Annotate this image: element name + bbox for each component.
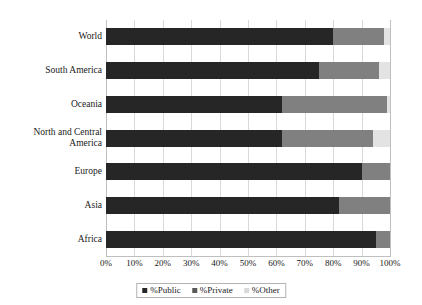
bar-row	[106, 130, 390, 147]
square-dark-icon	[142, 288, 147, 293]
x-axis-line	[106, 256, 391, 257]
x-axis-tick-label: 100%	[380, 258, 401, 268]
x-axis-tick-label: 60%	[268, 258, 285, 268]
x-axis-tick-labels: 0%10%20%30%40%50%60%70%80%90%100%	[106, 258, 391, 274]
bar-segment	[106, 231, 376, 248]
bar-segment	[106, 130, 282, 147]
y-axis-label: Asia	[2, 200, 102, 211]
gridline-100	[390, 20, 391, 256]
x-axis-tick-label: 70%	[297, 258, 314, 268]
bar-row	[106, 163, 390, 180]
bar-segment	[106, 62, 319, 79]
x-axis-tick-label: 90%	[353, 258, 370, 268]
bar-row	[106, 28, 390, 45]
bar-segment	[106, 96, 282, 113]
bar-segment	[373, 130, 390, 147]
x-axis-tick-label: 20%	[155, 258, 172, 268]
bar-segment	[333, 28, 384, 45]
legend-item[interactable]: %Other	[244, 285, 280, 295]
y-axis-label: World	[2, 31, 102, 42]
legend-label: %Public	[150, 285, 181, 295]
legend-label: %Other	[252, 285, 280, 295]
x-axis-tick-label: 50%	[240, 258, 257, 268]
x-axis-tick-label: 10%	[126, 258, 143, 268]
legend-item[interactable]: %Public	[142, 285, 181, 295]
bar-segment	[106, 163, 362, 180]
y-axis-label: Europe	[2, 166, 102, 177]
bar-segment	[387, 96, 390, 113]
y-axis-labels: WorldSouth AmericaOceaniaNorth and Centr…	[0, 20, 102, 256]
y-axis-label: South America	[2, 65, 102, 76]
bar-segment	[379, 62, 390, 79]
y-axis-label: Oceania	[2, 99, 102, 110]
bar-row	[106, 197, 390, 214]
plot-area	[106, 20, 390, 256]
bar-segment	[319, 62, 379, 79]
y-axis-label: Africa	[2, 234, 102, 245]
legend-label: %Private	[200, 285, 233, 295]
x-axis-tick-label: 80%	[325, 258, 342, 268]
bar-row	[106, 96, 390, 113]
bar-segment	[282, 96, 387, 113]
stacked-bar-chart: WorldSouth AmericaOceaniaNorth and Centr…	[0, 0, 422, 305]
bar-row	[106, 62, 390, 79]
bar-segment	[339, 197, 390, 214]
x-axis-tick-label: 0%	[100, 258, 112, 268]
x-axis-tick-label: 30%	[183, 258, 200, 268]
bar-segment	[106, 197, 339, 214]
bar-row	[106, 231, 390, 248]
bar-segment	[362, 163, 390, 180]
legend-item[interactable]: %Private	[192, 285, 233, 295]
square-gray-icon	[192, 288, 197, 293]
y-axis-label: North and Central America	[2, 127, 102, 149]
bar-segment	[106, 28, 333, 45]
chart-legend: %Public%Private%Other	[136, 283, 286, 298]
x-axis-tick-label: 40%	[211, 258, 228, 268]
bar-segment	[282, 130, 373, 147]
square-light-icon	[244, 288, 249, 293]
bar-segment	[384, 28, 390, 45]
bar-segment	[376, 231, 390, 248]
